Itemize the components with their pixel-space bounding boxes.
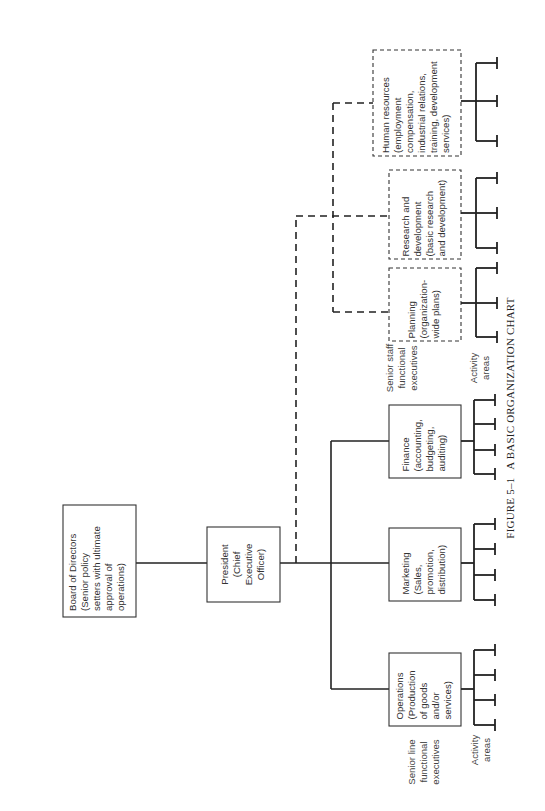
operations-line-5: services) xyxy=(442,681,453,719)
marketing-box[interactable]: Marketing (Sales, promotion, distributio… xyxy=(389,528,461,601)
planning-line-3: wide plans) xyxy=(430,290,441,340)
activity-staff-label-1: Activity xyxy=(468,353,479,384)
svg-text:Marketing: Marketing xyxy=(400,552,411,594)
board-line-3: setters with ultimate xyxy=(91,526,102,611)
research-activity-rake xyxy=(461,172,497,254)
svg-text:areas: areas xyxy=(480,356,491,380)
finance-line-2: (accounting, xyxy=(412,419,423,471)
board-line-5: operations) xyxy=(115,563,126,611)
senior-staff-label-1: Senior staff xyxy=(384,343,395,392)
operations-box[interactable]: Operations (Production of goods and/or s… xyxy=(389,653,461,726)
svg-text:Activity: Activity xyxy=(468,353,479,384)
senior-staff-label-2: functional xyxy=(396,347,407,388)
finance-box[interactable]: Finance (accounting, budgeting, auditing… xyxy=(389,405,461,478)
marketing-line-4: distribution) xyxy=(436,545,447,595)
activity-staff-label-2: areas xyxy=(480,356,491,380)
svg-text:promotion,: promotion, xyxy=(424,549,435,594)
svg-text:(accounting,: (accounting, xyxy=(412,419,423,471)
svg-text:(Production: (Production xyxy=(406,670,417,719)
senior-line-label-2: functional xyxy=(418,741,429,782)
svg-text:auditing): auditing) xyxy=(436,435,447,472)
research-line-1: Research and xyxy=(400,197,411,257)
president-line-4: Officer) xyxy=(255,549,266,580)
svg-text:Board of Directors: Board of Directors xyxy=(67,533,78,611)
operations-line-2: (Production xyxy=(406,670,417,719)
svg-text:(basic research: (basic research xyxy=(424,191,435,257)
marketing-activity-rake xyxy=(461,518,495,606)
research-development-box[interactable]: Research and development (basic research… xyxy=(389,170,461,259)
svg-text:of goods: of goods xyxy=(418,682,429,719)
hr-activity-rake xyxy=(461,57,497,147)
president-box[interactable]: President (Chief Executive Officer) xyxy=(207,527,280,602)
organization-chart: Board of Directors (Senior policy setter… xyxy=(0,0,545,811)
research-line-4: and development) xyxy=(436,180,447,257)
svg-text:services): services) xyxy=(442,681,453,719)
board-line-2: (Senior policy xyxy=(79,553,90,611)
operations-activity-rake xyxy=(461,644,495,731)
senior-line-label-3: executives xyxy=(430,739,441,785)
staff-relationship-connectors xyxy=(296,103,389,563)
president-line-3: Executive xyxy=(243,544,254,586)
senior-line-label: Senior line functional executives xyxy=(406,739,441,785)
president-line-2: (Chief xyxy=(231,551,242,577)
svg-text:(Sales,: (Sales, xyxy=(412,565,423,595)
planning-line-1: Planning xyxy=(406,301,417,338)
svg-text:functional: functional xyxy=(418,741,429,782)
hr-line-3: compensation, xyxy=(404,91,415,153)
marketing-line-3: promotion, xyxy=(424,549,435,594)
svg-text:areas: areas xyxy=(481,738,492,762)
svg-text:FIGURE 5–1A BASIC ORGANIZATION: FIGURE 5–1A BASIC ORGANIZATION CHART xyxy=(504,297,516,538)
svg-text:wide plans): wide plans) xyxy=(430,290,441,340)
hr-line-2: (employment xyxy=(392,97,403,153)
caption-title: A BASIC ORGANIZATION CHART xyxy=(504,297,516,469)
svg-text:operations): operations) xyxy=(115,563,126,611)
svg-text:Planning: Planning xyxy=(406,301,417,338)
research-line-2: development xyxy=(412,201,423,256)
finance-activity-rake xyxy=(461,394,495,480)
hr-line-6: services) xyxy=(440,115,451,153)
president-line-1: President xyxy=(219,544,230,585)
marketing-line-1: Marketing xyxy=(400,552,411,594)
hr-line-1: Human resources xyxy=(380,77,391,153)
board-line-4: approval of xyxy=(103,563,114,611)
finance-line-1: Finance xyxy=(400,437,411,471)
planning-activity-rake xyxy=(461,262,497,343)
board-of-directors-box[interactable]: Board of Directors (Senior policy setter… xyxy=(63,505,136,617)
marketing-line-2: (Sales, xyxy=(412,565,423,595)
operations-line-1: Operations xyxy=(394,672,405,719)
activity-line-label-1: Activity xyxy=(469,735,480,766)
hr-line-4: industrial relations, xyxy=(416,73,427,153)
svg-text:and/or: and/or xyxy=(430,691,441,719)
svg-text:President: President xyxy=(219,544,230,585)
svg-text:budgeting,: budgeting, xyxy=(424,427,435,472)
senior-staff-label-3: executives xyxy=(408,345,419,391)
svg-text:training, development: training, development xyxy=(428,61,439,153)
svg-text:industrial relations,: industrial relations, xyxy=(416,73,427,153)
svg-text:(Chief: (Chief xyxy=(231,551,242,577)
activity-areas-staff-label: Activity areas xyxy=(468,353,491,384)
research-line-3: (basic research xyxy=(424,191,435,257)
activity-line-label-2: areas xyxy=(481,738,492,762)
human-resources-box[interactable]: Human resources (employment compensation… xyxy=(373,50,461,156)
svg-text:Officer): Officer) xyxy=(255,549,266,580)
figure-caption: FIGURE 5–1A BASIC ORGANIZATION CHART xyxy=(504,297,516,538)
svg-text:Operations: Operations xyxy=(394,672,405,719)
svg-text:Senior line: Senior line xyxy=(406,739,417,784)
senior-line-label-1: Senior line xyxy=(406,739,417,784)
svg-text:(Senior policy: (Senior policy xyxy=(79,553,90,611)
hr-line-5: training, development xyxy=(428,61,439,153)
operations-line-3: of goods xyxy=(418,682,429,719)
svg-text:Executive: Executive xyxy=(243,544,254,586)
svg-text:(employment: (employment xyxy=(392,97,403,153)
svg-text:development: development xyxy=(412,201,423,256)
svg-text:setters with ultimate: setters with ultimate xyxy=(91,526,102,611)
senior-staff-label: Senior staff functional executives xyxy=(384,343,419,392)
activity-areas-rakes xyxy=(461,57,497,731)
svg-text:Senior staff: Senior staff xyxy=(384,343,395,392)
caption-number: FIGURE 5–1 xyxy=(504,478,516,539)
planning-box[interactable]: Planning (organization- wide plans) xyxy=(389,268,461,341)
svg-text:and development): and development) xyxy=(436,180,447,257)
svg-text:executives: executives xyxy=(408,345,419,391)
svg-text:Finance: Finance xyxy=(400,437,411,471)
planning-line-2: (organization- xyxy=(418,280,429,339)
